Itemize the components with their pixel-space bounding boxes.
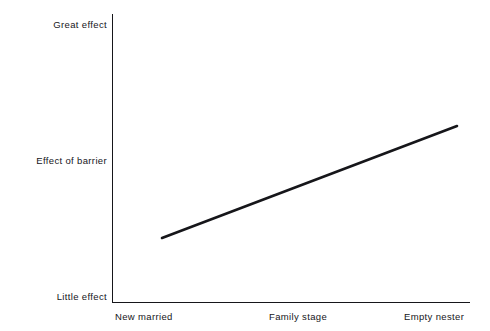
y-axis-label-great-effect: Great effect [53, 19, 107, 30]
series-line-effect-of-barrier [162, 126, 457, 238]
x-axis-label-empty-nester: Empty nester [404, 311, 464, 322]
y-axis-label-little-effect: Little effect [57, 291, 107, 302]
x-axis-label-family-stage: Family stage [269, 311, 327, 322]
x-axis-label-new-married: New married [115, 311, 173, 322]
chart-figure: Great effect Effect of barrier Little ef… [0, 0, 490, 331]
y-axis-title-effect-of-barrier: Effect of barrier [36, 155, 107, 166]
